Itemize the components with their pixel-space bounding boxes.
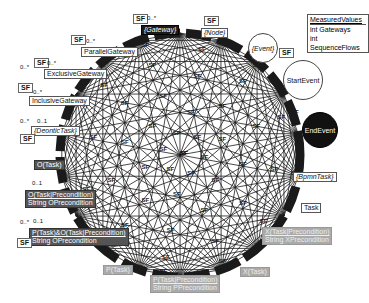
svg-text:SF: SF [108, 177, 116, 183]
node-node[interactable]: {Node} [201, 28, 228, 38]
node-p-and-o-task-precondition-label: P(Task)&O(Task|Precondition) [32, 229, 126, 237]
multiplicity-p-and-o-optional: 0..1 [33, 218, 43, 225]
node-x-task[interactable]: X(Task) [240, 267, 270, 277]
node-end-event[interactable]: EndEvent [302, 112, 338, 148]
svg-text:SF: SF [89, 134, 97, 140]
node-parallel-gateway[interactable]: ParallelGateway [81, 47, 138, 57]
node-end-event-label: EndEvent [305, 127, 335, 134]
sf-self-loop-event: SF [279, 48, 294, 58]
multiplicity-gateway: 0..* [147, 15, 156, 22]
node-deontic-task[interactable]: {DeonticTask} [31, 126, 80, 136]
svg-text:SF: SF [193, 134, 201, 140]
svg-text:SF: SF [187, 170, 195, 176]
svg-text:SF: SF [278, 114, 286, 120]
multiplicity-o-task-precondition: 0..1 [32, 180, 42, 187]
svg-text:SF: SF [180, 150, 188, 156]
legend-title: MeasuredValues [310, 15, 366, 25]
node-p-and-o-task-precondition-attr: String OPrecondition [32, 237, 126, 245]
node-start-event[interactable]: StartEvent [283, 60, 323, 100]
node-bpmn-task[interactable]: {BpmnTask} [293, 172, 337, 182]
svg-text:SF: SF [193, 73, 201, 79]
node-parallel-gateway-label: ParallelGateway [84, 48, 135, 55]
sf-self-loop-node: SF [204, 16, 219, 26]
legend-row-sequenceflows: int SequenceFlows [310, 34, 366, 52]
node-node-label: {Node} [204, 29, 225, 36]
multiplicity-parallel-gateway: 0..* [86, 38, 95, 45]
node-o-task-precondition[interactable]: O(Task|Precondition) String OPreconditio… [25, 190, 96, 208]
multiplicity-inclusive-gateway: 0..* [33, 89, 42, 96]
node-o-task-precondition-label: O(Task|Precondition) [28, 191, 93, 199]
node-o-task-label: O(Task) [37, 161, 62, 168]
node-p-task[interactable]: P(Task) [103, 265, 133, 275]
node-bpmn-task-label: {BpmnTask} [296, 173, 334, 180]
svg-text:SF: SF [141, 164, 149, 170]
node-exclusive-gateway-label: ExclusiveGateway [47, 70, 104, 77]
node-gateway[interactable]: {Gateway} [141, 25, 179, 35]
node-p-task-precondition-attr: String PPrecondition [153, 284, 217, 292]
node-inclusive-gateway-label: InclusiveGateway [32, 97, 87, 104]
node-gateway-label: {Gateway} [144, 26, 176, 33]
multiplicity-deontic-optional: 0..1 [37, 118, 47, 125]
svg-text:SF: SF [291, 109, 299, 115]
sf-self-loop-inclusive-gateway: SF [18, 83, 33, 93]
svg-text:SF: SF [167, 227, 175, 233]
node-x-task-precondition-label: X(Task|Precondition) [265, 228, 329, 236]
node-deontic-task-label: {DeonticTask} [34, 127, 77, 134]
sf-self-loop-p-and-o-task: SF [17, 238, 32, 248]
sf-self-loop-parallel-gateway: SF [71, 35, 86, 45]
sf-self-loop-gateway: SF [133, 14, 148, 24]
multiplicity-exclusive-gateway: 0..* [47, 60, 56, 67]
node-p-task-precondition-label: P(Task|Precondition) [153, 276, 217, 284]
svg-text:SF: SF [149, 123, 157, 129]
svg-text:SF: SF [141, 197, 149, 203]
node-event[interactable]: {Event} [248, 33, 278, 63]
svg-text:SF: SF [201, 207, 209, 213]
sf-self-loop-deontic-task: SF [20, 134, 35, 144]
node-x-task-precondition-attr: String XPrecondition [265, 236, 329, 244]
node-inclusive-gateway[interactable]: InclusiveGateway [29, 96, 90, 106]
multiplicity-deontic-many: 0..* [20, 118, 29, 125]
node-x-task-label: X(Task) [243, 268, 267, 275]
svg-text:SF: SF [167, 166, 175, 172]
node-exclusive-gateway[interactable]: ExclusiveGateway [44, 69, 107, 79]
node-event-label: {Event} [252, 45, 275, 52]
node-start-event-label: StartEvent [287, 77, 320, 84]
multiplicity-p-and-o-many: 0..* [20, 219, 29, 226]
legend-row-gateways: int Gateways [310, 25, 366, 34]
svg-text:SF: SF [219, 136, 227, 142]
node-p-task-label: P(Task) [106, 266, 130, 273]
node-o-task-precondition-attr: String OPrecondition [28, 199, 93, 207]
svg-text:SF: SF [219, 258, 227, 264]
measured-values-legend: MeasuredValues int Gateways int Sequence… [307, 14, 369, 53]
node-task[interactable]: Task [301, 203, 321, 213]
svg-text:SF: SF [148, 62, 156, 68]
node-task-label: Task [304, 204, 318, 211]
svg-text:SF: SF [141, 42, 149, 48]
multiplicity-exclusive-gateway-src: 0..* [20, 64, 29, 71]
node-o-task[interactable]: O(Task) [34, 160, 65, 170]
node-p-task-precondition[interactable]: P(Task|Precondition) String PPreconditio… [150, 275, 220, 293]
node-p-and-o-task-precondition[interactable]: P(Task)&O(Task|Precondition) String OPre… [29, 228, 129, 246]
node-x-task-precondition[interactable]: X(Task|Precondition) String XPreconditio… [262, 227, 332, 245]
